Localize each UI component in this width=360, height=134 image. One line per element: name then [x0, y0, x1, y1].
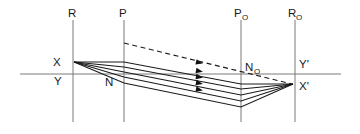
label-plane-r-o: R O	[288, 7, 302, 22]
label-point-n-o-sub: O	[254, 67, 260, 76]
label-point-x-prime: X'	[299, 80, 309, 92]
label-point-n-o-main: N	[245, 61, 253, 73]
label-point-y-prime: Y'	[299, 58, 309, 70]
diagram-canvas: R P P O R O X Y N N O Y' X'	[0, 0, 360, 134]
arrowhead-icon-ray-2	[196, 68, 204, 75]
label-plane-r-o-sub: O	[296, 13, 302, 22]
label-point-y: Y	[54, 75, 62, 87]
optical-ray-diagram: R P P O R O X Y N N O Y' X'	[0, 0, 360, 134]
label-point-n: N	[105, 76, 113, 88]
label-plane-p: P	[119, 7, 127, 19]
label-point-x: X	[53, 56, 61, 68]
label-plane-p-o: P O	[234, 7, 248, 22]
label-plane-r: R	[68, 7, 76, 19]
label-plane-p-o-main: P	[234, 7, 242, 19]
label-plane-p-o-sub: O	[242, 13, 248, 22]
